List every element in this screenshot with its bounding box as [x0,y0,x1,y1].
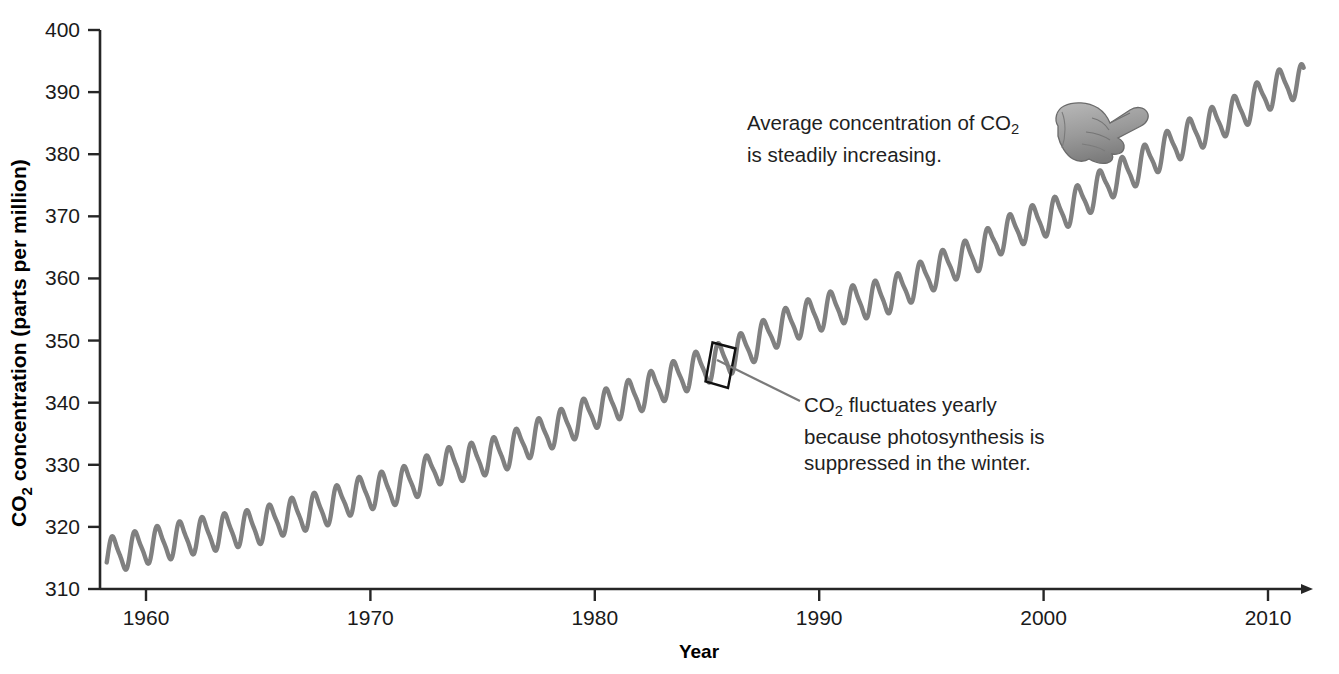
annotation-average-line1: Average concentration of CO2 [747,110,1019,142]
pointing-hand-icon [1056,103,1148,163]
annotation-fluctuation-line1-suffix: fluctuates yearly [843,393,997,416]
co2-concentration-chart: 310320330340350360370380390400 196019701… [0,0,1339,674]
y-tick-label: 400 [45,18,80,41]
y-tick-label: 370 [45,204,80,227]
annotation-fluctuation-line3: suppressed in the winter. [804,450,1044,476]
annotation-fluctuation-line1-prefix: CO [804,393,835,416]
annotation-fluctuation-line1: CO2 fluctuates yearly [804,392,1044,424]
x-axis-ticks [146,589,1268,601]
x-tick-label: 1990 [796,606,843,629]
svg-text:Year: Year [679,641,720,662]
y-axis-tick-labels: 310320330340350360370380390400 [45,18,80,600]
annotation-fluctuation-line2: because photosynthesis is [804,424,1044,450]
x-tick-label: 1960 [123,606,170,629]
y-tick-label: 320 [45,515,80,538]
x-tick-label: 1970 [347,606,394,629]
y-tick-label: 360 [45,266,80,289]
annotation-average-increasing: Average concentration of CO2 is steadily… [747,110,1019,168]
svg-text:CO2 concentration (parts per m: CO2 concentration (parts per million) [7,159,35,527]
co2-data-series [107,64,1304,570]
y-axis-title: CO2 concentration (parts per million) [7,159,35,527]
x-axis-tick-labels: 196019701980199020002010 [123,606,1292,629]
x-tick-label: 2010 [1245,606,1292,629]
x-axis-title: Year [679,641,720,662]
y-axis-ticks [88,30,100,589]
annotation-average-line1-prefix: Average concentration of CO [747,111,1011,134]
y-tick-label: 340 [45,391,80,414]
y-tick-label: 380 [45,142,80,165]
chart-canvas: 310320330340350360370380390400 196019701… [0,0,1339,674]
annotation-average-line2: is steadily increasing. [747,142,1019,168]
annotation-fluctuation-line1-subscript: 2 [835,403,843,419]
x-tick-label: 1980 [571,606,618,629]
x-tick-label: 2000 [1020,606,1067,629]
y-tick-label: 350 [45,329,80,352]
annotation-average-line1-subscript: 2 [1011,121,1019,137]
y-tick-label: 310 [45,577,80,600]
annotation-yearly-fluctuation: CO2 fluctuates yearly because photosynth… [804,392,1044,476]
y-tick-label: 390 [45,80,80,103]
y-tick-label: 330 [45,453,80,476]
